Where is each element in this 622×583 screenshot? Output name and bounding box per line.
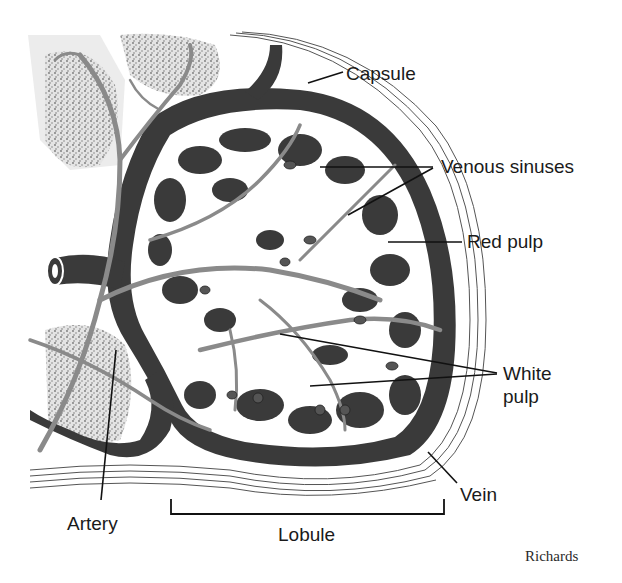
spleen-lobule-illustration [0, 0, 622, 583]
vein-leader [428, 452, 457, 483]
label-lobule: Lobule [278, 524, 335, 546]
vessel-cross-section [47, 255, 125, 290]
illustrator-credit: Richards [525, 548, 578, 565]
label-capsule: Capsule [346, 63, 416, 85]
lobule-bracket [171, 499, 444, 514]
label-artery: Artery [67, 513, 118, 535]
label-red-pulp: Red pulp [467, 231, 543, 253]
label-vein: Vein [460, 484, 497, 506]
capsule-leader [308, 72, 343, 83]
label-white-pulp-line1: White [503, 363, 552, 385]
label-white-pulp-line2: pulp [503, 386, 539, 408]
label-venous-sinuses: Venous sinuses [441, 156, 574, 178]
